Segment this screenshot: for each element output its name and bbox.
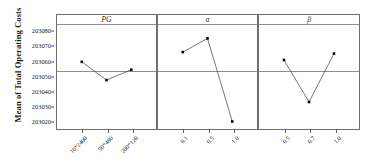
x-tick-mark xyxy=(310,130,311,133)
y-tick-mark xyxy=(51,46,54,47)
x-tick-label: 1.0 xyxy=(230,135,240,145)
panel-body-alpha xyxy=(158,25,257,130)
y-tick-label: 203020 xyxy=(32,119,51,125)
x-tick-mark xyxy=(82,130,83,133)
panel-header-beta: β xyxy=(259,14,359,25)
y-tick-label: 203040 xyxy=(32,89,51,95)
series-line xyxy=(183,38,233,121)
x-tick-label: 0.1 xyxy=(180,135,190,145)
plot-top-frame-line xyxy=(56,14,360,15)
main-effects-plot: Mean of Total Operating Costs 2030202030… xyxy=(0,0,366,168)
x-axis-alpha: 0.10.51.0 xyxy=(158,130,257,168)
y-axis-tick-labels: 2030202030302030402030502030602030702030… xyxy=(18,14,54,130)
data-point-marker xyxy=(231,120,234,123)
y-tick-mark xyxy=(51,91,54,92)
panel-header-label: PG xyxy=(102,15,112,24)
y-tick-mark xyxy=(51,76,54,77)
panel-PG: PG10*240050*480200*120 xyxy=(56,14,157,130)
data-point-marker xyxy=(308,101,311,104)
y-tick-mark xyxy=(51,122,54,123)
x-tick-label: 10*2400 xyxy=(69,135,89,155)
y-tick-label: 203080 xyxy=(32,28,51,34)
data-point-marker xyxy=(181,51,184,54)
x-tick-label: 0.7 xyxy=(307,135,317,145)
x-tick-label: 0.5 xyxy=(281,135,291,145)
series-line xyxy=(82,62,132,80)
series-line xyxy=(284,54,334,102)
panel-beta: β0.50.71.0 xyxy=(258,14,360,130)
x-tick-label: 1.0 xyxy=(332,135,342,145)
data-point-marker xyxy=(80,61,83,64)
panel-header-PG: PG xyxy=(57,14,156,25)
x-tick-mark xyxy=(108,130,109,133)
panel-alpha: α0.10.51.0 xyxy=(157,14,258,130)
series-alpha xyxy=(158,25,257,130)
plot-area: PG10*240050*480200*120α0.10.51.0β0.50.71… xyxy=(56,14,360,130)
x-tick-label: 0.5 xyxy=(205,135,215,145)
x-axis-PG: 10*240050*480200*120 xyxy=(57,130,156,168)
panel-body-beta xyxy=(259,25,359,130)
x-tick-mark xyxy=(133,130,134,133)
x-tick-label: 200*120 xyxy=(119,135,139,155)
x-tick-mark xyxy=(183,130,184,133)
data-point-marker xyxy=(333,52,336,55)
data-point-marker xyxy=(130,68,133,71)
y-tick-label: 203060 xyxy=(32,58,51,64)
x-tick-mark xyxy=(336,130,337,133)
series-PG xyxy=(57,25,156,130)
y-tick-mark xyxy=(51,61,54,62)
panel-header-alpha: α xyxy=(158,14,257,25)
panel-header-label: α xyxy=(206,15,210,24)
y-tick-label: 203050 xyxy=(32,74,51,80)
panel-body-PG xyxy=(57,25,156,130)
x-tick-mark xyxy=(285,130,286,133)
data-point-marker xyxy=(206,37,209,40)
x-tick-label: 50*480 xyxy=(96,135,114,153)
panel-header-label: β xyxy=(307,15,311,24)
x-tick-mark xyxy=(234,130,235,133)
data-point-marker xyxy=(105,79,108,82)
y-tick-mark xyxy=(51,107,54,108)
data-point-marker xyxy=(283,59,286,62)
series-beta xyxy=(259,25,359,130)
y-tick-label: 203030 xyxy=(32,104,51,110)
x-tick-mark xyxy=(209,130,210,133)
y-tick-mark xyxy=(51,31,54,32)
x-axis-beta: 0.50.71.0 xyxy=(259,130,359,168)
y-tick-label: 203070 xyxy=(32,43,51,49)
